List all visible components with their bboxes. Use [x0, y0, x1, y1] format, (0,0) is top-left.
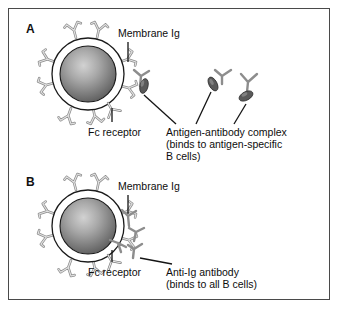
label-antigen-complex-line1: Antigen-antibody complex: [166, 126, 287, 139]
label-fc-receptor-b: Fc receptor: [88, 266, 141, 279]
panel-letter-b: B: [26, 175, 35, 189]
label-anti-ig-line1: Anti-Ig antibody: [166, 266, 239, 279]
label-antigen-complex-line3: B cells): [166, 150, 200, 163]
figure-diagram: A B Membrane Ig Fc receptor Antigen-anti…: [0, 0, 343, 309]
label-membrane-ig-b: Membrane Ig: [118, 180, 180, 193]
label-antigen-complex-line2: (binds to antigen-specific: [166, 138, 282, 151]
label-membrane-ig-a: Membrane Ig: [118, 27, 180, 40]
panel-letter-a: A: [26, 22, 35, 36]
label-fc-receptor-a: Fc receptor: [88, 126, 141, 139]
label-anti-ig-line2: (binds to all B cells): [166, 278, 257, 291]
